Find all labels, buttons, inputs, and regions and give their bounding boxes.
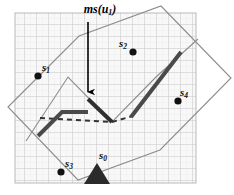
point-label-s2: s2 bbox=[119, 38, 127, 49]
figure-canvas bbox=[0, 0, 234, 195]
marker-s2 bbox=[129, 48, 136, 55]
point-label-s1: s1 bbox=[42, 62, 50, 73]
marker-s3 bbox=[57, 168, 64, 175]
geometry-figure: ms(u1) s1 s2 s3 s4 s0 bbox=[0, 0, 234, 195]
marker-s1 bbox=[34, 72, 41, 79]
point-label-s3: s3 bbox=[65, 158, 73, 169]
point-label-s4: s4 bbox=[180, 87, 188, 98]
point-label-s0: s0 bbox=[99, 150, 107, 161]
ms-u1-label: ms(u1) bbox=[60, 3, 140, 15]
marker-s4 bbox=[174, 97, 181, 104]
